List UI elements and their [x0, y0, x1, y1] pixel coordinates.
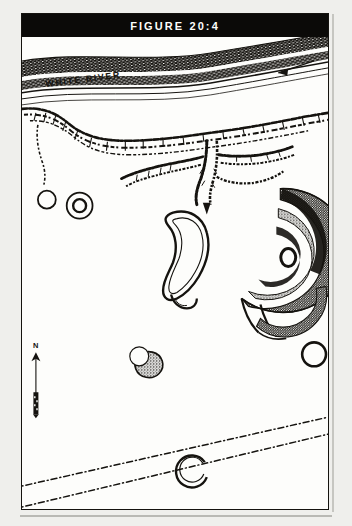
- figure-title-bar: FIGURE 20:4: [22, 14, 328, 37]
- figure-page: FIGURE 20:4: [0, 0, 352, 526]
- north-label: N: [33, 341, 38, 350]
- map-svg: WHITE RIVER: [22, 37, 328, 509]
- small-circle-east: [302, 342, 326, 366]
- page-edge-bottom: [20, 515, 332, 517]
- small-circle-west: [38, 191, 56, 209]
- scale-bar: [33, 392, 39, 418]
- double-ring-circle: [67, 193, 93, 219]
- central-mound: [281, 249, 296, 267]
- gapped-circle-south: [176, 455, 207, 487]
- figure-plate: FIGURE 20:4: [21, 13, 329, 510]
- page-edge-right: [332, 14, 334, 512]
- map-canvas: WHITE RIVER: [22, 37, 328, 509]
- figure-title: FIGURE 20:4: [130, 20, 220, 32]
